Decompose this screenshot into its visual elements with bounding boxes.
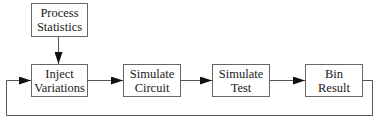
node-label-line-1: Simulate: [219, 67, 264, 81]
node-label-line-1: Process: [40, 6, 78, 20]
node-bin-result: Bin Result: [306, 65, 363, 97]
node-simulate-circuit: Simulate Circuit: [124, 65, 181, 97]
node-process-statistics: Process Statistics: [32, 4, 88, 37]
node-label-line-2: Statistics: [37, 20, 82, 34]
node-label-line-1: Bin: [325, 67, 344, 81]
node-label-line-2: Variations: [34, 81, 85, 95]
node-label-line-1: Inject: [45, 67, 74, 81]
node-label-line-1: Simulate: [130, 67, 175, 81]
node-label-line-2: Result: [318, 81, 350, 95]
monte-carlo-flow-diagram: Process Statistics Inject Variations Sim…: [0, 0, 381, 119]
node-inject-variations: Inject Variations: [32, 65, 88, 97]
node-label-line-2: Test: [231, 81, 252, 95]
node-simulate-test: Simulate Test: [213, 65, 270, 97]
node-label-line-2: Circuit: [135, 81, 170, 95]
